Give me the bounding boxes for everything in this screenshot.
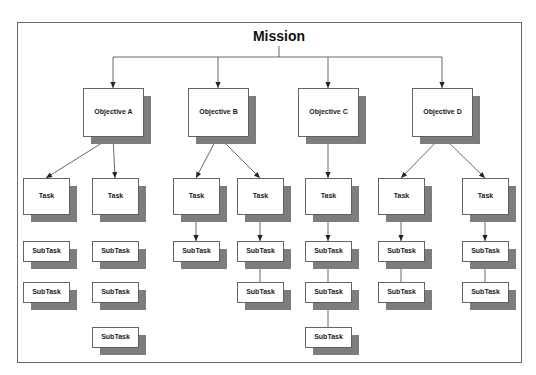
task-box: Task <box>93 179 147 223</box>
node-label: Objective A <box>94 108 132 116</box>
node-label: Task <box>394 192 410 199</box>
node-label: SubTask <box>314 333 343 340</box>
task-box: Task <box>238 179 292 223</box>
task-box: Task <box>379 179 433 223</box>
task-box: Task <box>306 179 360 223</box>
subtask-box: SubTask <box>24 283 78 311</box>
node-label: SubTask <box>101 247 130 254</box>
node-label: SubTask <box>387 247 416 254</box>
subtask-box: SubTask <box>306 242 360 270</box>
node-label: SubTask <box>182 247 211 254</box>
node-label: SubTask <box>246 288 275 295</box>
subtask-box: SubTask <box>379 283 433 311</box>
org-chart-diagram: Mission Objective ATaskSubTaskSubTaskTas… <box>0 0 536 375</box>
objective-b-box: Objective B <box>189 89 257 145</box>
subtask-box: SubTask <box>174 242 228 270</box>
node-label: Task <box>478 192 494 199</box>
subtask-box: SubTask <box>463 242 517 270</box>
node-label: SubTask <box>471 288 500 295</box>
node-label: SubTask <box>32 247 61 254</box>
node-label: Task <box>108 192 124 199</box>
subtask-box: SubTask <box>379 242 433 270</box>
subtask-box: SubTask <box>306 328 360 356</box>
subtask-box: SubTask <box>93 242 147 270</box>
node-label: SubTask <box>314 288 343 295</box>
task-box: Task <box>24 179 78 223</box>
objective-a-box: Objective A <box>84 89 152 145</box>
node-label: Task <box>321 192 337 199</box>
task-box: Task <box>174 179 228 223</box>
node-label: SubTask <box>246 247 275 254</box>
node-label: Task <box>253 192 269 199</box>
mission-title: Mission <box>253 28 305 44</box>
objective-d-box: Objective D <box>413 89 481 145</box>
subtask-box: SubTask <box>306 283 360 311</box>
task-box: Task <box>463 179 517 223</box>
node-label: SubTask <box>101 288 130 295</box>
node-label: Objective B <box>199 108 238 116</box>
objective-c-box: Objective C <box>299 89 367 145</box>
node-label: SubTask <box>101 333 130 340</box>
subtask-box: SubTask <box>93 328 147 356</box>
node-label: SubTask <box>32 288 61 295</box>
node-label: SubTask <box>314 247 343 254</box>
subtask-box: SubTask <box>238 242 292 270</box>
node-label: SubTask <box>387 288 416 295</box>
subtask-box: SubTask <box>93 283 147 311</box>
node-label: Objective D <box>423 108 462 116</box>
subtask-box: SubTask <box>24 242 78 270</box>
subtask-box: SubTask <box>238 283 292 311</box>
node-label: Task <box>39 192 55 199</box>
subtask-box: SubTask <box>463 283 517 311</box>
node-label: SubTask <box>471 247 500 254</box>
node-label: Task <box>189 192 205 199</box>
node-label: Objective C <box>309 108 348 116</box>
